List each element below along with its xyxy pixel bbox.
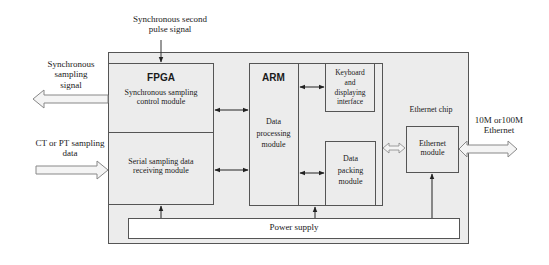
sync-signal-output-arrow [33,90,108,108]
arm-ethernet-link [383,143,405,153]
connector-layer [0,0,549,265]
ethernet-output-arrow [459,141,517,157]
ctpt-input-arrow [36,161,108,179]
